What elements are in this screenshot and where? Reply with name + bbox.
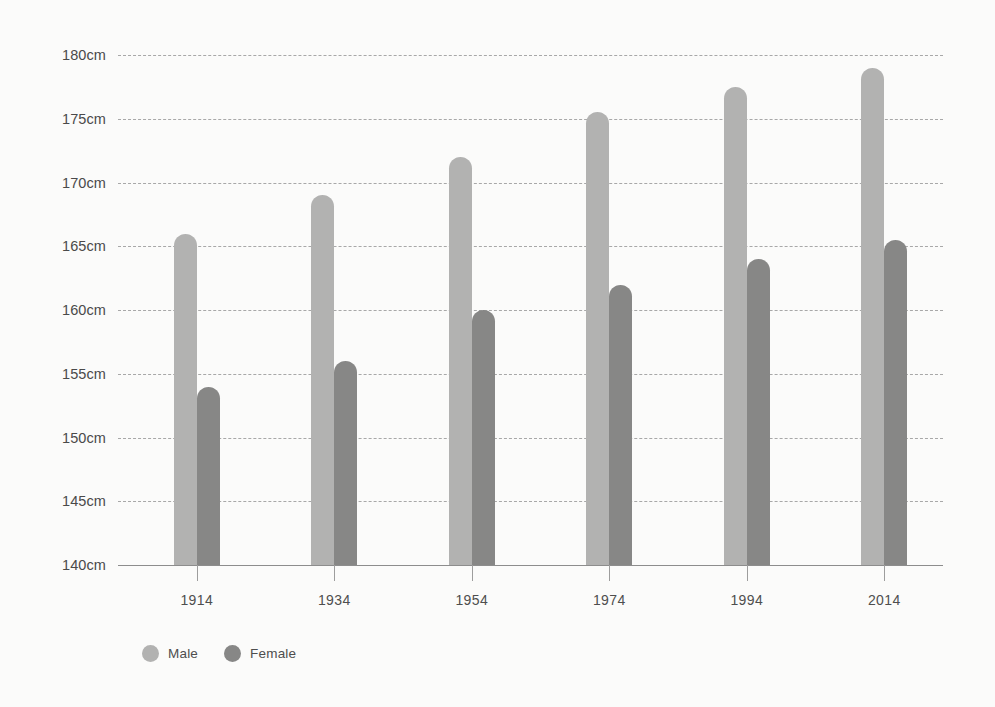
y-axis: 180cm175cm170cm165cm160cm155cm150cm145cm… bbox=[20, 55, 106, 565]
legend-label: Female bbox=[250, 646, 296, 661]
bar-group-1974 bbox=[586, 55, 632, 565]
bar-female-2014[interactable] bbox=[884, 240, 907, 565]
y-axis-tick-label: 165cm bbox=[26, 238, 106, 254]
x-axis-tick-label-1974: 1974 bbox=[549, 592, 669, 608]
legend-item-female[interactable]: Female bbox=[224, 645, 296, 662]
y-axis-tick-label: 175cm bbox=[26, 111, 106, 127]
bar-male-1954[interactable] bbox=[449, 157, 472, 565]
gridline bbox=[118, 183, 943, 184]
bar-female-1954[interactable] bbox=[472, 310, 495, 565]
y-axis-tick-label: 150cm bbox=[26, 430, 106, 446]
bar-female-1914[interactable] bbox=[197, 387, 220, 566]
bar-group-1954 bbox=[449, 55, 495, 565]
bar-male-1974[interactable] bbox=[586, 112, 609, 565]
bar-female-1934[interactable] bbox=[334, 361, 357, 565]
height-chart: 180cm175cm170cm165cm160cm155cm150cm145cm… bbox=[0, 0, 995, 707]
x-axis-tick bbox=[747, 565, 748, 581]
y-axis-tick-label: 180cm bbox=[26, 47, 106, 63]
bar-female-1974[interactable] bbox=[609, 285, 632, 566]
legend-label: Male bbox=[168, 646, 198, 661]
x-axis-tick-label-1954: 1954 bbox=[412, 592, 532, 608]
y-axis-tick-label: 160cm bbox=[26, 302, 106, 318]
x-axis-tick bbox=[472, 565, 473, 581]
bar-female-1994[interactable] bbox=[747, 259, 770, 565]
x-axis-tick bbox=[197, 565, 198, 581]
x-axis-tick bbox=[609, 565, 610, 581]
bar-group-1934 bbox=[311, 55, 357, 565]
x-axis-tick-label-2014: 2014 bbox=[824, 592, 944, 608]
bar-male-1934[interactable] bbox=[311, 195, 334, 565]
gridline bbox=[118, 374, 943, 375]
bar-male-1994[interactable] bbox=[724, 87, 747, 565]
bar-group-1914 bbox=[174, 55, 220, 565]
legend-item-male[interactable]: Male bbox=[142, 645, 198, 662]
gridline bbox=[118, 438, 943, 439]
x-axis-tick bbox=[884, 565, 885, 581]
y-axis-tick-label: 140cm bbox=[26, 557, 106, 573]
x-axis-tick-label-1994: 1994 bbox=[687, 592, 807, 608]
bar-male-1914[interactable] bbox=[174, 234, 197, 566]
gridline bbox=[118, 55, 943, 56]
y-axis-tick-label: 170cm bbox=[26, 175, 106, 191]
legend-swatch-female-icon bbox=[224, 645, 241, 662]
gridline bbox=[118, 119, 943, 120]
x-axis-tick-label-1914: 1914 bbox=[137, 592, 257, 608]
gridline bbox=[118, 310, 943, 311]
bar-group-2014 bbox=[861, 55, 907, 565]
y-axis-tick-label: 155cm bbox=[26, 366, 106, 382]
gridline bbox=[118, 246, 943, 247]
bar-group-1994 bbox=[724, 55, 770, 565]
x-axis-tick bbox=[334, 565, 335, 581]
legend: MaleFemale bbox=[142, 645, 296, 662]
x-axis-tick-label-1934: 1934 bbox=[274, 592, 394, 608]
axis-baseline bbox=[118, 565, 943, 566]
bar-male-2014[interactable] bbox=[861, 68, 884, 565]
y-axis-tick-label: 145cm bbox=[26, 493, 106, 509]
gridline bbox=[118, 501, 943, 502]
legend-swatch-male-icon bbox=[142, 645, 159, 662]
plot-area bbox=[118, 55, 943, 565]
